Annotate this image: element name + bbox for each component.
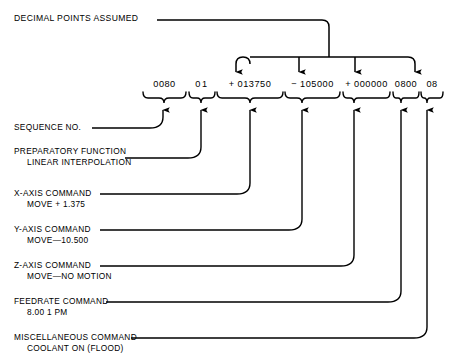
callout-label-x-axis-command: X-AXIS COMMAND <box>14 189 92 198</box>
callout-label-preparatory-function: PREPARATORY FUNCTION <box>14 147 126 156</box>
field-value-y-axis-command: − 105000 <box>285 79 340 89</box>
callout-sublabel-miscellaneous-command: COOLANT ON (FLOOD) <box>27 344 124 353</box>
nc-block-format-diagram: DECIMAL POINTS ASSUMED 0080 01 + 013750 … <box>0 0 452 355</box>
brace-y-axis <box>285 92 340 103</box>
callout-leaders <box>92 110 427 338</box>
field-braces <box>143 92 443 103</box>
callout-sublabel-preparatory-function: LINEAR INTERPOLATION <box>27 158 132 167</box>
leader-z-axis <box>100 110 354 266</box>
decimal-points-assumed-label: DECIMAL POINTS ASSUMED <box>14 14 138 24</box>
brace-feedrate <box>393 92 419 103</box>
field-value-sequence-number: 0080 <box>143 79 186 89</box>
decimal-point-arrows <box>236 57 415 72</box>
callout-label-feedrate-command: FEEDRATE COMMAND <box>14 297 109 306</box>
leader-miscellaneous <box>131 110 427 338</box>
callout-sublabel-y-axis-command: MOVE—10.500 <box>27 236 88 245</box>
brace-x-axis <box>217 92 283 103</box>
callout-label-sequence-number: SEQUENCE NO. <box>14 123 81 132</box>
callout-sublabel-z-axis-command: MOVE—NO MOTION <box>27 272 112 281</box>
decimal-points-leader <box>157 20 415 64</box>
leader-feedrate <box>106 110 401 302</box>
brace-sequence-number <box>143 92 186 103</box>
callout-label-y-axis-command: Y-AXIS COMMAND <box>14 225 91 234</box>
brace-preparatory-function <box>189 92 215 103</box>
field-value-preparatory-function: 01 <box>189 79 215 89</box>
callout-label-z-axis-command: Z-AXIS COMMAND <box>14 261 91 270</box>
field-value-x-axis-command: + 013750 <box>217 79 283 89</box>
decimal-arrow-1 <box>236 57 243 72</box>
callout-label-miscellaneous-command: MISCELLANEOUS COMMAND <box>14 333 137 342</box>
callout-sublabel-x-axis-command: MOVE + 1.375 <box>27 200 85 209</box>
leader-sequence-number <box>92 110 163 128</box>
field-value-z-axis-command: + 000000 <box>343 79 390 89</box>
brace-z-axis <box>343 92 390 103</box>
field-value-miscellaneous-command: 08 <box>421 79 443 89</box>
callout-sublabel-feedrate-command: 8.00 1 PM <box>27 308 68 317</box>
field-value-feedrate-command: 0800 <box>393 79 419 89</box>
brace-miscellaneous <box>421 92 443 103</box>
